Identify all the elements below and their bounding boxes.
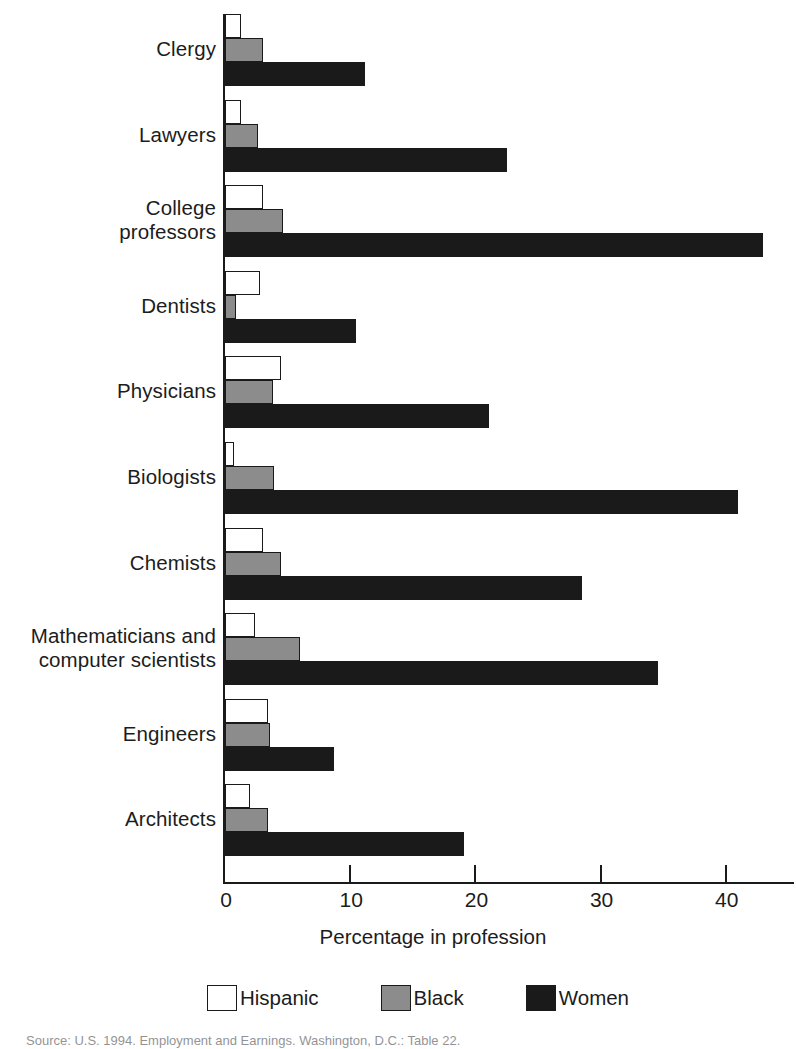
legend-label: Black xyxy=(414,986,464,1010)
bar-women-architects xyxy=(225,832,464,856)
bar-women-clergy xyxy=(225,62,365,86)
plot-area: 010203040 ClergyLawyersCollegeprofessors… xyxy=(0,0,796,890)
bar-black-college-professors xyxy=(225,209,283,233)
category-label-line: Mathematicians and xyxy=(0,624,216,648)
category-label: Clergy xyxy=(0,37,216,61)
bars-container xyxy=(225,14,785,86)
category-label-line: Dentists xyxy=(0,294,216,318)
category-label-line: College xyxy=(0,196,216,220)
bar-group: Dentists xyxy=(0,271,796,343)
bar-group: Collegeprofessors xyxy=(0,185,796,257)
bars-container xyxy=(225,528,785,600)
bar-chart-figure: 010203040 ClergyLawyersCollegeprofessors… xyxy=(0,0,796,1049)
legend-swatch-icon-women xyxy=(526,985,556,1011)
bar-black-engineers xyxy=(225,723,270,747)
bars-container xyxy=(225,356,785,428)
bar-group: Biologists xyxy=(0,442,796,514)
source-note: Source: U.S. 1994. Employment and Earnin… xyxy=(26,1033,460,1048)
bar-black-chemists xyxy=(225,552,281,576)
category-label: Lawyers xyxy=(0,123,216,147)
bar-hispanic-chemists xyxy=(225,528,263,552)
bars-container xyxy=(225,613,785,685)
category-label: Physicians xyxy=(0,379,216,403)
bar-group: Chemists xyxy=(0,528,796,600)
chart-legend: HispanicBlackWomen xyxy=(0,985,796,1011)
bars-container xyxy=(225,442,785,514)
category-label-line: Architects xyxy=(0,807,216,831)
x-tick-label-20: 20 xyxy=(446,888,506,912)
category-label: Mathematicians andcomputer scientists xyxy=(0,624,216,672)
x-tick-30 xyxy=(600,865,602,882)
bar-hispanic-architects xyxy=(225,784,250,808)
bars-container xyxy=(225,784,785,856)
bar-group: Mathematicians andcomputer scientists xyxy=(0,613,796,685)
legend-label: Hispanic xyxy=(240,986,319,1010)
x-tick-20 xyxy=(474,865,476,882)
legend-item-black[interactable]: Black xyxy=(381,985,464,1011)
x-axis-title: Percentage in profession xyxy=(0,925,796,949)
bar-hispanic-clergy xyxy=(225,14,241,38)
bars-container xyxy=(225,271,785,343)
bar-women-dentists xyxy=(225,319,356,343)
x-tick-label-10: 10 xyxy=(321,888,381,912)
bar-black-mathematicians-and-computer-scientists xyxy=(225,637,300,661)
bar-group: Lawyers xyxy=(0,100,796,172)
bar-hispanic-mathematicians-and-computer-scientists xyxy=(225,613,255,637)
bar-group: Engineers xyxy=(0,699,796,771)
bar-hispanic-lawyers xyxy=(225,100,241,124)
category-label: Collegeprofessors xyxy=(0,196,216,244)
bars-container xyxy=(225,100,785,172)
legend-item-hispanic[interactable]: Hispanic xyxy=(207,985,319,1011)
x-tick-label-30: 30 xyxy=(572,888,632,912)
bar-group: Architects xyxy=(0,784,796,856)
x-axis-line xyxy=(223,882,794,884)
category-label: Engineers xyxy=(0,722,216,746)
bar-hispanic-dentists xyxy=(225,271,260,295)
x-tick-40 xyxy=(725,865,727,882)
legend-swatch-icon-hispanic xyxy=(207,985,237,1011)
bar-women-physicians xyxy=(225,404,489,428)
bar-women-chemists xyxy=(225,576,582,600)
legend-item-women[interactable]: Women xyxy=(526,985,629,1011)
bar-black-physicians xyxy=(225,380,273,404)
category-label-line: computer scientists xyxy=(0,648,216,672)
category-label-line: Clergy xyxy=(0,37,216,61)
bar-women-engineers xyxy=(225,747,334,771)
category-label-line: Engineers xyxy=(0,722,216,746)
x-tick-label-0: 0 xyxy=(196,888,256,912)
category-label: Dentists xyxy=(0,294,216,318)
category-label-line: Physicians xyxy=(0,379,216,403)
bar-hispanic-physicians xyxy=(225,356,281,380)
category-label: Biologists xyxy=(0,465,216,489)
bar-women-college-professors xyxy=(225,233,763,257)
bar-black-architects xyxy=(225,808,268,832)
bars-container xyxy=(225,185,785,257)
category-label-line: Chemists xyxy=(0,551,216,575)
x-tick-10 xyxy=(349,865,351,882)
bar-black-biologists xyxy=(225,466,274,490)
bar-group: Physicians xyxy=(0,356,796,428)
bar-hispanic-college-professors xyxy=(225,185,263,209)
x-tick-label-40: 40 xyxy=(697,888,757,912)
category-label: Architects xyxy=(0,807,216,831)
bar-black-dentists xyxy=(225,295,236,319)
bar-black-clergy xyxy=(225,38,263,62)
bar-women-mathematicians-and-computer-scientists xyxy=(225,661,658,685)
bar-group: Clergy xyxy=(0,14,796,86)
bars-container xyxy=(225,699,785,771)
bar-women-lawyers xyxy=(225,148,507,172)
bar-black-lawyers xyxy=(225,124,258,148)
bar-women-biologists xyxy=(225,490,738,514)
category-label-line: Biologists xyxy=(0,465,216,489)
legend-label: Women xyxy=(559,986,629,1010)
bar-hispanic-engineers xyxy=(225,699,268,723)
category-label-line: professors xyxy=(0,220,216,244)
legend-swatch-icon-black xyxy=(381,985,411,1011)
category-label: Chemists xyxy=(0,551,216,575)
category-label-line: Lawyers xyxy=(0,123,216,147)
bar-hispanic-biologists xyxy=(225,442,234,466)
